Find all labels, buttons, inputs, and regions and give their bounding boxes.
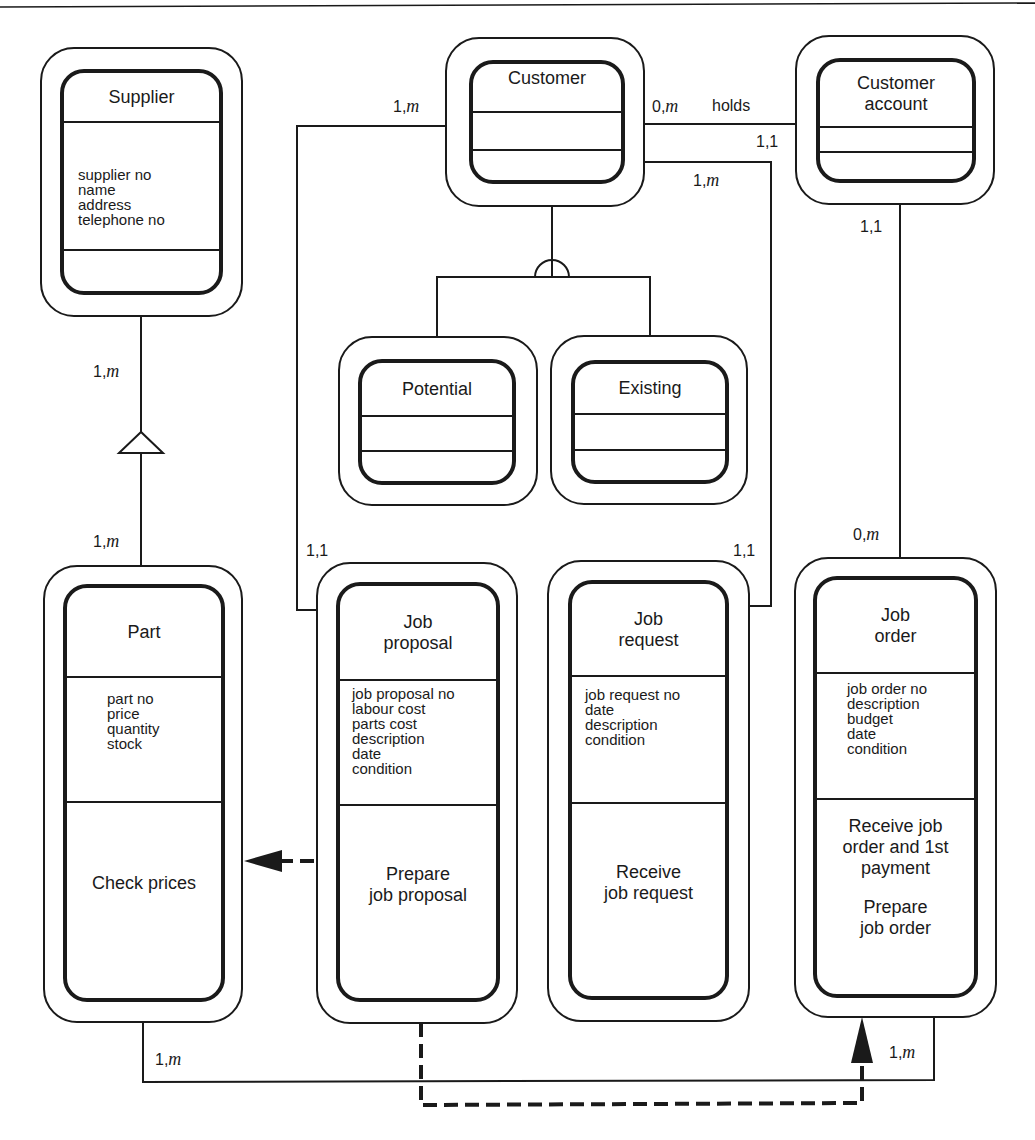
- cardinality-label: 1,m: [393, 97, 419, 116]
- class-job-order[interactable]: Job order job order no description budge…: [794, 557, 997, 1018]
- class-job-request[interactable]: Job request job request no date descript…: [547, 560, 750, 1022]
- cardinality-label: 1,1: [733, 542, 755, 560]
- class-operations: [362, 452, 512, 481]
- cardinality-label: 1,m: [693, 171, 719, 190]
- cardinality-label: 1,m: [93, 362, 119, 381]
- whole-part-triangle-icon: [119, 432, 163, 453]
- class-name: Customer account: [820, 62, 972, 128]
- cardinality-label: 1,m: [889, 1043, 915, 1062]
- class-operations: Check prices: [67, 803, 221, 998]
- cardinality-label: 0,m: [652, 97, 678, 116]
- class-operations: [473, 151, 621, 180]
- operation-prepare-job-order[interactable]: Prepare job order: [860, 897, 931, 939]
- class-name: Customer: [473, 64, 621, 113]
- cardinality-label: 1,1: [860, 218, 882, 236]
- cardinality-label: 1,1: [306, 542, 328, 560]
- class-operations: Receive job request: [572, 804, 725, 996]
- operation-receive-job-request[interactable]: Receive job request: [604, 862, 693, 904]
- class-name: Existing: [575, 364, 725, 415]
- cardinality-label: 0,m: [853, 525, 879, 544]
- class-customer[interactable]: Customer: [445, 37, 645, 207]
- class-existing[interactable]: Existing: [550, 335, 748, 505]
- class-attributes: job request no date description conditio…: [572, 677, 725, 804]
- class-operations: [64, 251, 219, 291]
- class-attributes: [820, 128, 972, 153]
- message-arrow-left-icon: [244, 850, 282, 872]
- class-attributes: supplier no name address telephone no: [64, 123, 219, 251]
- class-name: Job request: [572, 584, 725, 677]
- class-attributes: [575, 415, 725, 451]
- class-operations: Receive job order and 1st payment Prepar…: [817, 800, 974, 994]
- class-attributes: part no price quantity stock: [67, 678, 221, 803]
- class-job-proposal[interactable]: Job proposal job proposal no labour cost…: [316, 562, 518, 1024]
- cardinality-label: 1,1: [756, 133, 778, 151]
- class-name: Job order: [817, 580, 974, 674]
- class-supplier[interactable]: Supplier supplier no name address teleph…: [40, 47, 243, 317]
- class-name: Potential: [362, 363, 512, 417]
- class-attributes: job proposal no labour cost parts cost d…: [340, 681, 496, 806]
- class-name: Supplier: [64, 73, 219, 123]
- class-operations: [820, 153, 972, 179]
- class-operations: Prepare job proposal: [340, 806, 496, 998]
- operation-check-prices[interactable]: Check prices: [92, 873, 196, 894]
- class-attributes: job order no description budget date con…: [817, 674, 974, 800]
- class-customer-account[interactable]: Customer account: [795, 35, 995, 205]
- cardinality-label: 1,m: [155, 1050, 181, 1069]
- operation-prepare-job-proposal[interactable]: Prepare job proposal: [369, 864, 467, 906]
- class-name: Job proposal: [340, 586, 496, 681]
- class-potential[interactable]: Potential: [338, 336, 538, 506]
- operation-receive-job-order[interactable]: Receive job order and 1st payment: [842, 816, 948, 879]
- relation-label-holds: holds: [712, 97, 750, 115]
- message-arrow-up-icon: [851, 1017, 873, 1063]
- class-attributes: [473, 113, 621, 151]
- cardinality-label: 1,m: [93, 532, 119, 551]
- class-name: Part: [67, 588, 221, 678]
- class-operations: [575, 451, 725, 480]
- class-attributes: [362, 417, 512, 452]
- class-part[interactable]: Part part no price quantity stock Check …: [43, 565, 243, 1023]
